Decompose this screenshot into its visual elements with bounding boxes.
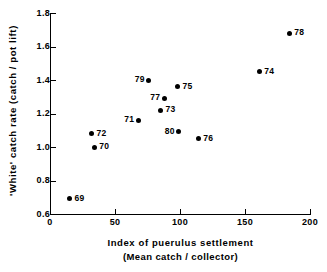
data-point-label: 77 — [147, 93, 160, 102]
y-axis-tick-label: 0.8 — [16, 176, 50, 185]
data-point-label: 75 — [182, 82, 192, 91]
scatter-chart-figure: 0.60.81.01.21.41.61.8 050100150200 Index… — [0, 0, 327, 272]
data-point-label: 73 — [166, 105, 176, 114]
data-point-label: 80 — [162, 127, 175, 136]
data-point — [162, 96, 167, 101]
x-axis-tick-label: 0 — [35, 217, 65, 227]
data-point — [92, 145, 97, 150]
data-point-label: 74 — [264, 67, 274, 76]
x-axis-title-main: Index of puerulus settlement — [107, 237, 253, 248]
y-axis-tick-label-text: 1.0 — [24, 143, 50, 152]
plot-area — [50, 13, 310, 214]
data-point-label: 76 — [203, 134, 213, 143]
x-axis-title: Index of puerulus settlement (Mean catch… — [50, 236, 311, 264]
x-axis-tick — [310, 209, 311, 215]
y-axis-tick — [51, 214, 56, 215]
y-axis-tick-label-text: 1.8 — [24, 9, 50, 18]
data-point-label: 72 — [97, 129, 107, 138]
x-axis-tick-label: 200 — [295, 217, 325, 227]
y-axis-tick-label: 1.6 — [16, 42, 50, 51]
x-axis-tick-label: 100 — [165, 217, 195, 227]
data-point-label: 78 — [294, 28, 304, 37]
data-point — [287, 31, 292, 36]
y-axis-tick-label-text: 1.4 — [24, 76, 50, 85]
y-axis-tick-label-text: 1.6 — [24, 42, 50, 51]
data-point — [196, 136, 201, 141]
x-axis-tick-label: 50 — [100, 217, 130, 227]
data-point — [158, 108, 163, 113]
data-point-label: 70 — [99, 142, 109, 151]
y-axis-tick-label: 1.2 — [16, 109, 50, 118]
x-axis-tick-label: 150 — [230, 217, 260, 227]
y-axis-title: 'White' catch rate (catch / pot lift) — [7, 6, 18, 216]
y-axis-tick-label-text: 0.8 — [24, 176, 50, 185]
data-point — [257, 69, 262, 74]
data-point-label: 71 — [121, 115, 134, 124]
y-axis-tick-label: 1.4 — [16, 76, 50, 85]
y-axis-tick-label-text: 1.2 — [24, 109, 50, 118]
data-point — [146, 78, 151, 83]
data-point-label: 79 — [132, 75, 145, 84]
data-point — [136, 118, 141, 123]
y-axis-tick-label: 1.0 — [16, 143, 50, 152]
x-axis-title-sub: (Mean catch / collector) — [50, 250, 311, 264]
data-point-label: 69 — [75, 194, 85, 203]
y-axis-tick-label: 1.8 — [16, 9, 50, 18]
